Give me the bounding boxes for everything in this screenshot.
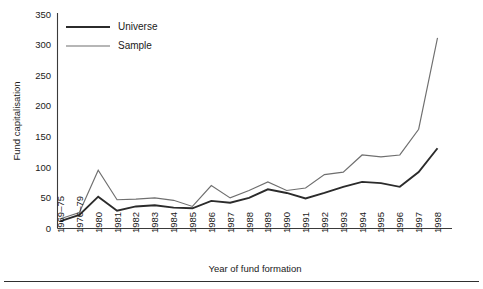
x-tick-1980: 1980	[93, 212, 104, 233]
x-tick-1969-75: 1969–75	[55, 196, 66, 233]
x-tick-1976-79: 1976–79	[74, 196, 85, 233]
x-tick-1987: 1987	[225, 212, 236, 233]
y-axis-title: Fund capitalisation	[11, 81, 22, 160]
x-tick-1993: 1993	[338, 212, 349, 233]
x-tick-1996: 1996	[394, 212, 405, 233]
x-tick-1991: 1991	[300, 212, 311, 233]
series-line-universe	[61, 148, 438, 221]
x-tick-1988: 1988	[244, 212, 255, 233]
x-tick-1981: 1981	[112, 212, 123, 233]
chart-legend: Universe Sample	[66, 21, 158, 51]
y-tick-250: 250	[35, 70, 51, 81]
x-tick-labels: 1969–751976–7919801981198219831984198519…	[55, 196, 443, 233]
x-tick-1989: 1989	[262, 212, 273, 233]
x-tick-1995: 1995	[375, 212, 386, 233]
line-chart: 350 300 250 200 150 100 50 0 Fund capita…	[0, 0, 483, 289]
y-tick-0: 0	[46, 223, 51, 234]
y-tick-100: 100	[35, 162, 51, 173]
chart-figure: 350 300 250 200 150 100 50 0 Fund capita…	[0, 0, 483, 289]
legend-label-sample: Sample	[118, 40, 152, 51]
x-tick-1994: 1994	[357, 212, 368, 233]
x-tick-1998: 1998	[432, 212, 443, 233]
x-axis-title: Year of fund formation	[208, 263, 301, 274]
y-tick-labels: 350 300 250 200 150 100 50 0	[35, 9, 51, 234]
y-tick-300: 300	[35, 39, 51, 50]
x-tick-1984: 1984	[168, 212, 179, 233]
series-line-sample	[61, 38, 438, 219]
y-tick-150: 150	[35, 131, 51, 142]
x-tick-1982: 1982	[130, 212, 141, 233]
y-tick-50: 50	[40, 192, 51, 203]
x-tick-1997: 1997	[413, 212, 424, 233]
x-tick-1990: 1990	[281, 212, 292, 233]
y-tick-200: 200	[35, 100, 51, 111]
x-tick-1986: 1986	[206, 212, 217, 233]
x-tick-1992: 1992	[319, 212, 330, 233]
x-tick-1983: 1983	[149, 212, 160, 233]
y-tick-350: 350	[35, 9, 51, 20]
x-tick-1985: 1985	[187, 212, 198, 233]
legend-label-universe: Universe	[118, 21, 158, 32]
